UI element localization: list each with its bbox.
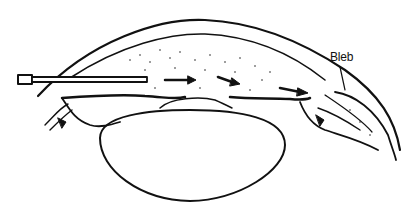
iris-left — [62, 95, 185, 98]
eye-diagram: Bleb — [0, 0, 413, 214]
cannula-shaft — [32, 77, 147, 82]
bleb-label: Bleb — [330, 50, 353, 64]
flow-arrows — [165, 76, 308, 96]
lens — [100, 110, 285, 201]
eye-cross-section-drawing — [0, 0, 413, 214]
cornea-outer — [38, 20, 400, 150]
iris-right — [230, 97, 310, 100]
cannula-hub — [18, 75, 32, 84]
cornea-inner — [70, 34, 325, 80]
